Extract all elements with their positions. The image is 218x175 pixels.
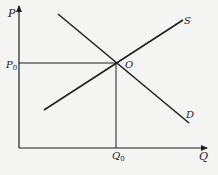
y-axis-label: P [7,7,16,20]
demand-curve [58,14,189,123]
supply-curve [44,20,183,110]
supply-demand-chart: P Q P0 Q0 S D O [0,0,218,175]
equilibrium-label: O [125,59,133,70]
supply-label: S [184,15,191,26]
p0-label: P0 [5,59,17,72]
q0-label: Q0 [112,150,125,163]
demand-label: D [185,109,194,120]
x-axis-label: Q [199,150,208,163]
